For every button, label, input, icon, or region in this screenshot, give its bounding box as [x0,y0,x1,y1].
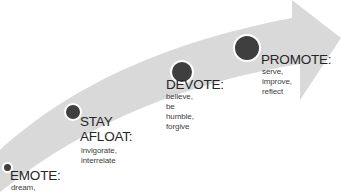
stage-devote-description: believe, be humble, forgive [166,92,194,132]
stage-promote-dot-icon [233,34,261,62]
process-diagram: EMOTE: dream, ... STAY AFLOAT: invigorat… [0,0,341,194]
stage-emote-title: EMOTE: [10,168,61,183]
stage-stay-afloat-title-line1: STAY [80,114,112,129]
stage-emote-description: dream, ... [11,183,35,194]
stage-promote-title: PROMOTE: [261,52,331,67]
stage-devote-title: DEVOTE: [166,77,224,92]
stage-stay-afloat-title-line2: AFLOAT: [80,129,132,144]
stage-promote-description: serve, improve, reflect [262,67,292,97]
stage-stay-afloat-description: invigorate, interrelate [81,146,117,166]
